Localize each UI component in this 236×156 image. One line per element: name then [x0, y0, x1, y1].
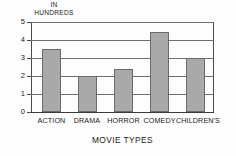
gridline-5: [31, 22, 214, 23]
x-axis-category-labels: ACTION DRAMA HORROR COMEDY CHILDREN'S: [31, 116, 214, 128]
category-label-drama: DRAMA: [68, 116, 107, 125]
y-axis-tick-labels: 5 4 3 2 1 0: [0, 0, 25, 156]
plot-area: [31, 22, 214, 112]
y-tick-label: 4: [7, 36, 25, 44]
y-tick-label: 2: [7, 72, 25, 80]
bar-horror: [114, 69, 133, 112]
y-tick-label: 5: [7, 18, 25, 26]
gridline-4: [31, 40, 214, 41]
y-tick-label: 1: [7, 90, 25, 98]
bar-childrens: [186, 58, 205, 112]
bar-comedy: [150, 32, 169, 112]
bar-chart-figure: IN HUNDREDS 5 4 3 2 1 0 ACTION DRAMA HOR…: [0, 0, 236, 156]
y-axis-unit-title-line-1: IN: [18, 1, 90, 9]
y-tick-label: 3: [7, 54, 25, 62]
y-axis-unit-title-line-2: HUNDREDS: [18, 9, 90, 17]
y-tick-label: 0: [7, 108, 25, 116]
y-axis-unit-title: IN HUNDREDS: [18, 1, 90, 17]
bar-action: [42, 49, 61, 112]
x-axis-baseline: [31, 112, 214, 113]
x-axis-title: MOVIE TYPES: [31, 135, 214, 145]
bar-drama: [78, 76, 97, 112]
category-label-childrens: CHILDREN'S: [172, 116, 224, 125]
